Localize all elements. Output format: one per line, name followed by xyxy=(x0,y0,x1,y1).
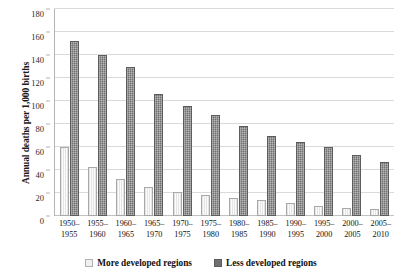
y-axis-tick-mark xyxy=(46,147,50,148)
x-axis-tick-label: 1960–1965 xyxy=(112,219,140,240)
plot-area xyxy=(54,9,394,216)
bar-group xyxy=(196,9,224,216)
bar-less-developed[interactable] xyxy=(296,142,305,216)
bar-more-developed[interactable] xyxy=(370,209,379,216)
y-axis-tick-labels: 180160140120100806040200 xyxy=(0,9,50,216)
bar-less-developed[interactable] xyxy=(211,115,220,216)
bar-more-developed[interactable] xyxy=(173,192,182,216)
x-axis-tick-labels: 1950–19551955–19601960–19651965–19701970… xyxy=(55,219,395,240)
bar-less-developed[interactable] xyxy=(267,136,276,217)
x-axis-tick-label: 1950–1955 xyxy=(55,219,83,240)
bar-more-developed[interactable] xyxy=(314,206,323,216)
x-axis-tick-label: 1995–2000 xyxy=(310,219,338,240)
bar-less-developed[interactable] xyxy=(98,55,107,216)
bar-group xyxy=(168,9,196,216)
bar-chart: Annual deaths per 1,000 births 180160140… xyxy=(0,0,402,279)
bar-group xyxy=(225,9,253,216)
bar-less-developed[interactable] xyxy=(126,67,135,217)
bar-group xyxy=(338,9,366,216)
y-axis-tick-mark xyxy=(46,32,50,33)
x-axis-tick-label: 2000–2005 xyxy=(338,219,366,240)
bar-less-developed[interactable] xyxy=(154,94,163,216)
bar-less-developed[interactable] xyxy=(183,106,192,216)
bar-less-developed[interactable] xyxy=(324,147,333,216)
bar-more-developed[interactable] xyxy=(201,195,210,216)
bar-more-developed[interactable] xyxy=(116,179,125,216)
x-axis-tick-label: 1975–1980 xyxy=(197,219,225,240)
x-axis-tick-label: 1955–1960 xyxy=(83,219,111,240)
bar-more-developed[interactable] xyxy=(229,198,238,216)
legend-swatch-icon-more xyxy=(85,259,93,267)
x-axis-tick-label: 1985–1990 xyxy=(253,219,281,240)
y-axis-tick-mark xyxy=(46,9,50,10)
y-axis-tick-mark xyxy=(46,55,50,56)
bar-group xyxy=(112,9,140,216)
bar-more-developed[interactable] xyxy=(88,167,97,216)
y-axis-tick-mark xyxy=(46,170,50,171)
x-axis-tick-label: 2005–2010 xyxy=(367,219,395,240)
bar-less-developed[interactable] xyxy=(70,41,79,216)
legend-swatch-icon-less xyxy=(214,259,222,267)
legend-label-more: More developed regions xyxy=(97,258,192,268)
x-axis-tick-label: 1990–1995 xyxy=(282,219,310,240)
bar-less-developed[interactable] xyxy=(239,126,248,216)
y-axis-tick-mark xyxy=(46,101,50,102)
bar-group xyxy=(253,9,281,216)
bar-group xyxy=(309,9,337,216)
bar-groups xyxy=(55,9,394,216)
y-axis-tick-mark xyxy=(46,216,50,217)
bar-more-developed[interactable] xyxy=(342,208,351,216)
bar-less-developed[interactable] xyxy=(380,162,389,216)
x-axis-tick-label: 1965–1970 xyxy=(140,219,168,240)
chart-legend: More developed regions Less developed re… xyxy=(0,258,402,268)
bar-less-developed[interactable] xyxy=(352,155,361,216)
x-axis-tick-label: 1970–1975 xyxy=(168,219,196,240)
legend-item-less-developed-regions: Less developed regions xyxy=(214,258,317,268)
legend-label-less: Less developed regions xyxy=(226,258,317,268)
bar-more-developed[interactable] xyxy=(286,203,295,216)
legend-item-more-developed-regions: More developed regions xyxy=(85,258,192,268)
bar-group xyxy=(55,9,83,216)
y-axis-tick-mark xyxy=(46,78,50,79)
x-axis-tick-label: 1980–1985 xyxy=(225,219,253,240)
bar-more-developed[interactable] xyxy=(257,200,266,216)
bar-more-developed[interactable] xyxy=(144,187,153,216)
bar-group xyxy=(83,9,111,216)
y-axis-tick-mark xyxy=(46,124,50,125)
bar-group xyxy=(140,9,168,216)
bar-group xyxy=(366,9,394,216)
bar-more-developed[interactable] xyxy=(60,147,69,216)
bar-group xyxy=(281,9,309,216)
y-axis-tick-mark xyxy=(46,193,50,194)
